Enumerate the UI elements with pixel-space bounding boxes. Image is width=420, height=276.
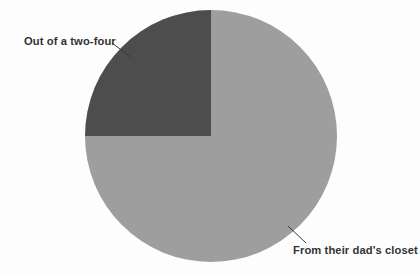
pie-label-out-of-a-two-four: Out of a two-four [24,36,116,47]
leader-line-from-their-dads-closet [288,226,306,243]
pie-chart: Out of a two-four From their dad's close… [0,0,420,276]
pie-label-from-their-dads-closet: From their dad's closet [293,245,418,256]
pie-slice-out-of-a-two-four[interactable] [85,10,211,136]
